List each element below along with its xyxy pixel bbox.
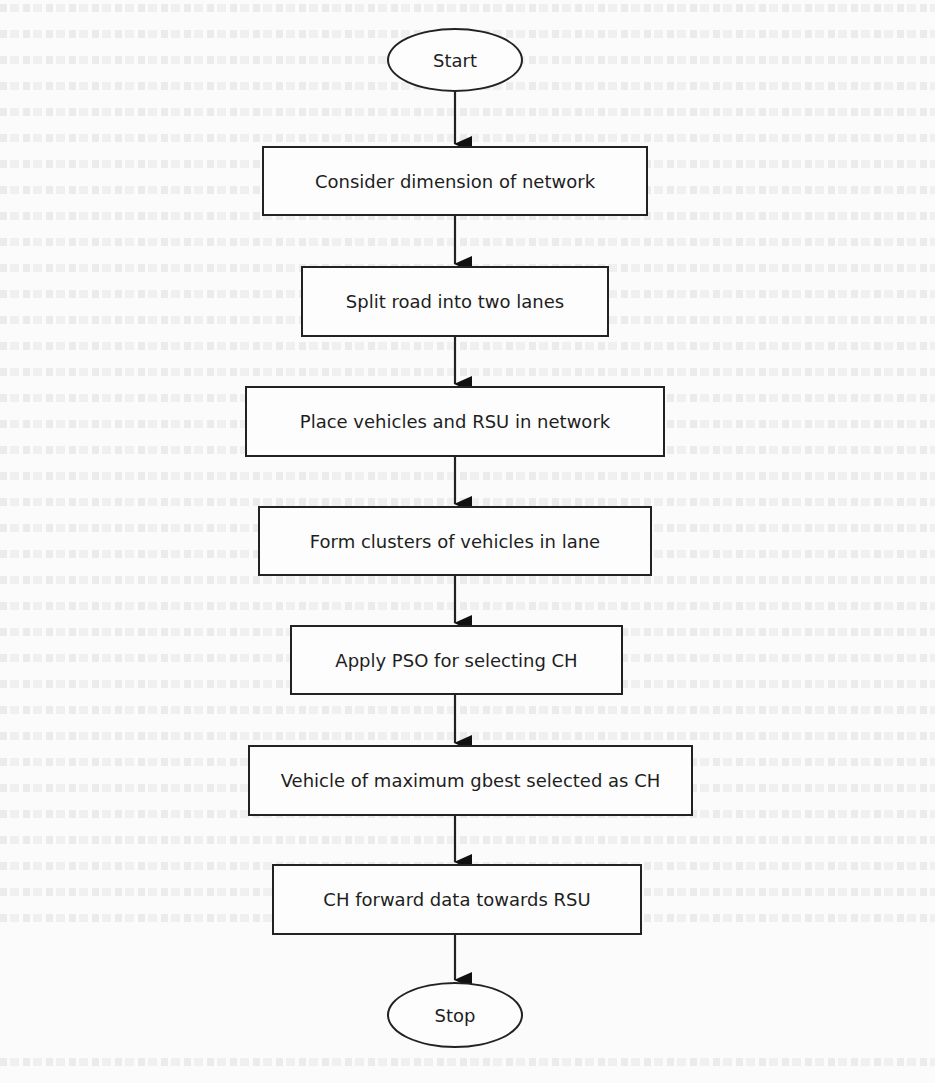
- step-label: Apply PSO for selecting CH: [335, 650, 577, 671]
- step-place-vehicles-rsu: Place vehicles and RSU in network: [245, 386, 665, 457]
- step-label: CH forward data towards RSU: [323, 889, 590, 910]
- step-consider-dimension: Consider dimension of network: [262, 146, 648, 216]
- start-terminal: Start: [387, 28, 523, 92]
- stop-label: Stop: [435, 1005, 476, 1026]
- step-label: Vehicle of maximum gbest selected as CH: [281, 770, 661, 791]
- step-select-ch-gbest: Vehicle of maximum gbest selected as CH: [248, 745, 693, 816]
- step-split-road: Split road into two lanes: [301, 266, 609, 337]
- step-label: Form clusters of vehicles in lane: [310, 531, 600, 552]
- step-label: Place vehicles and RSU in network: [300, 411, 610, 432]
- step-apply-pso: Apply PSO for selecting CH: [290, 625, 623, 695]
- step-label: Split road into two lanes: [346, 291, 564, 312]
- stop-terminal: Stop: [387, 982, 523, 1048]
- step-ch-forward-data: CH forward data towards RSU: [272, 864, 642, 935]
- step-form-clusters: Form clusters of vehicles in lane: [258, 506, 652, 576]
- step-label: Consider dimension of network: [315, 171, 595, 192]
- start-label: Start: [433, 50, 477, 71]
